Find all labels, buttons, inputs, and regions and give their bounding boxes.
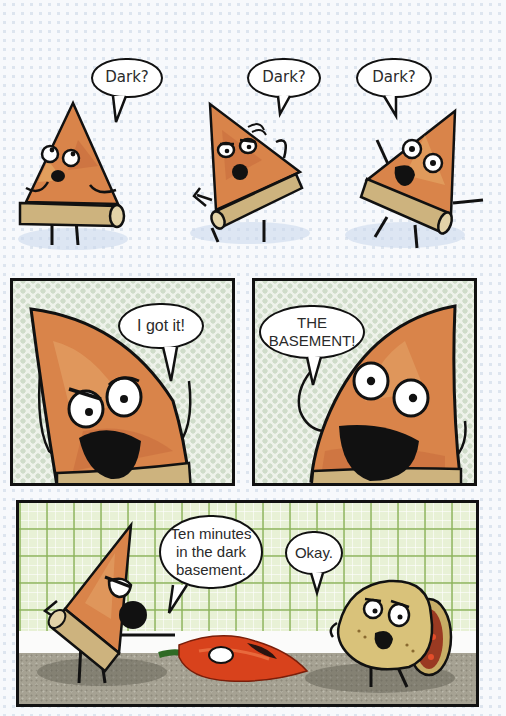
pizza-slice-confused — [192, 100, 312, 245]
speech-text-line2: BASEMENT! — [269, 332, 356, 350]
speech-text-line1: THE — [297, 314, 327, 332]
bubble-tail — [305, 355, 325, 389]
pizza-slice-scheming — [13, 281, 235, 486]
speech-bubble: Okay. — [285, 531, 343, 575]
bubble-tail — [169, 583, 193, 617]
comic-panel-2: I got it! — [10, 278, 235, 486]
speech-bubble: Ten minutes in the dark basement. — [159, 515, 263, 589]
bubble-tail — [161, 345, 181, 385]
speech-text: Dark? — [372, 69, 416, 87]
speech-text-line1: Ten minutes — [171, 525, 252, 543]
speech-text: Okay. — [295, 544, 333, 562]
taco-sad — [319, 575, 479, 695]
bubble-tail — [309, 571, 329, 597]
speech-text: I got it! — [137, 317, 185, 336]
speech-bubble: THE BASEMENT! — [259, 305, 365, 359]
speech-bubble: Dark? — [91, 58, 163, 98]
speech-bubble: Dark? — [247, 58, 321, 98]
speech-text: Dark? — [105, 69, 149, 87]
speech-text-line2: in the dark — [176, 543, 246, 561]
pizza-slice-scared — [355, 105, 495, 250]
speech-bubble: Dark? — [356, 58, 432, 98]
comic-panel-4: Ten minutes in the dark basement. Okay. — [16, 500, 479, 707]
comic-panel-3: THE BASEMENT! — [252, 278, 477, 486]
speech-bubble: I got it! — [118, 303, 204, 349]
pizza-slice-pointing — [35, 523, 175, 683]
red-pepper — [159, 633, 319, 688]
speech-text-line3: basement. — [176, 561, 246, 579]
speech-text: Dark? — [262, 69, 306, 87]
pizza-slice-worried — [18, 100, 128, 245]
